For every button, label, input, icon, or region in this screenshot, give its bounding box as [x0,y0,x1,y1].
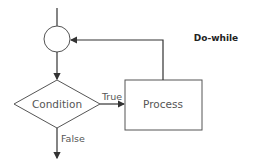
loop-back-arrow [71,40,163,80]
true-label: True [101,91,122,102]
do-while-flowchart: Condition True Process False Do-while [0,0,259,164]
diagram-title: Do-while [194,33,238,43]
false-label: False [61,133,85,144]
process-label: Process [143,98,183,110]
condition-label: Condition [32,98,82,110]
junction-circle [44,26,70,52]
